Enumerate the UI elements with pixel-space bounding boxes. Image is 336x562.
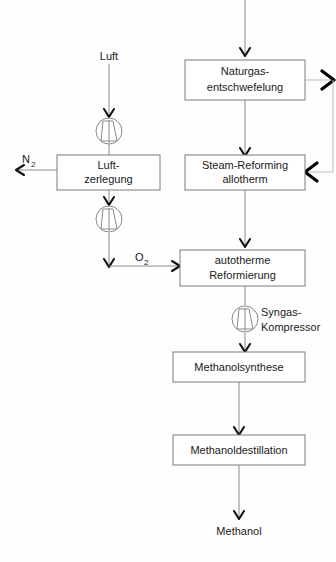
stream-label-nitrogen-main: N bbox=[22, 153, 30, 165]
process-box-methanoldestillation[interactable]: Methanoldestillation bbox=[173, 435, 305, 465]
stream-label-nitrogen: N 2 bbox=[22, 153, 36, 169]
stream-label-syngas-kompressor: Syngas- Kompressor bbox=[261, 306, 321, 333]
box-label-methanolsynthese: Methanolsynthese bbox=[194, 361, 283, 373]
box-label-luftzerlegung-line2: zerlegung bbox=[84, 173, 132, 185]
box-label-methanoldestillation: Methanoldestillation bbox=[190, 444, 287, 456]
compressor-icon-air[interactable] bbox=[96, 118, 122, 144]
stream-label-syngas-line1: Syngas- bbox=[261, 306, 302, 318]
compressor-icon-oxygen[interactable] bbox=[96, 206, 122, 232]
stream-label-luft: Luft bbox=[100, 50, 118, 62]
process-box-naturgas[interactable]: Naturgas- entschwefelung bbox=[185, 60, 305, 100]
stream-label-syngas-line2: Kompressor bbox=[261, 321, 321, 333]
box-label-steamreforming-line1: Steam-Reforming bbox=[202, 159, 288, 171]
process-box-methanolsynthese[interactable]: Methanolsynthese bbox=[173, 352, 305, 382]
stream-label-oxygen: O 2 bbox=[135, 251, 149, 267]
stream-label-methanol-product: Methanol bbox=[216, 525, 261, 537]
flowchart-canvas: Naturgas- entschwefelung Luft- zerlegung… bbox=[0, 0, 336, 562]
stream-label-oxygen-main: O bbox=[135, 251, 144, 263]
stream-label-oxygen-sub: 2 bbox=[144, 258, 149, 267]
process-box-luftzerlegung[interactable]: Luft- zerlegung bbox=[57, 155, 160, 190]
process-box-autotherm[interactable]: autotherme Reformierung bbox=[180, 250, 305, 286]
process-flow-diagram: Naturgas- entschwefelung Luft- zerlegung… bbox=[0, 0, 336, 562]
stream-label-nitrogen-sub: 2 bbox=[31, 160, 36, 169]
box-label-steamreforming-line2: allotherm bbox=[222, 173, 267, 185]
compressor-icon-syngas[interactable] bbox=[232, 306, 258, 332]
box-label-autotherm-line2: Reformierung bbox=[209, 269, 276, 281]
process-box-steamreforming[interactable]: Steam-Reforming allotherm bbox=[185, 155, 305, 190]
box-label-luftzerlegung-line1: Luft- bbox=[97, 159, 119, 171]
box-label-autotherm-line1: autotherme bbox=[215, 254, 271, 266]
box-label-naturgas-line2: entschwefelung bbox=[207, 81, 283, 93]
box-label-naturgas-line1: Naturgas- bbox=[221, 65, 270, 77]
